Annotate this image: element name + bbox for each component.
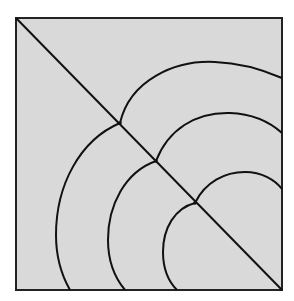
junction-point-1	[118, 121, 122, 125]
junction-point-3	[193, 201, 197, 205]
junction-point-2	[154, 159, 158, 163]
arc-diagram	[0, 0, 294, 301]
diagram-canvas	[0, 0, 294, 301]
